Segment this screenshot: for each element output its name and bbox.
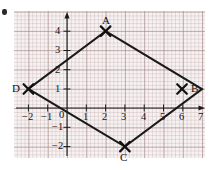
vertex-marker-b [177, 84, 187, 94]
y-tick-label-4: 4 [55, 26, 60, 37]
x-tick-label-7: 7 [198, 112, 203, 123]
figure-root: −2 −1 0 1 2 3 4 5 6 7 4 3 2 1 −1 −2 A B … [0, 0, 211, 170]
point-label-b: B [191, 83, 198, 94]
point-label-a: A [102, 15, 110, 26]
x-tick-label-6: 6 [179, 112, 184, 123]
point-label-c: C [120, 152, 127, 163]
vertex-markers [24, 26, 187, 151]
y-tick-label--1: −1 [52, 122, 63, 133]
y-axis [64, 12, 69, 156]
y-tick-label-3: 3 [55, 45, 60, 56]
x-tick-label-4: 4 [141, 112, 146, 123]
x-tick-label--1: −1 [41, 112, 52, 123]
y-tick-label--2: −2 [52, 141, 63, 152]
y-tick-label-2: 2 [55, 65, 60, 76]
x-tick-label-0: 0 [59, 110, 64, 121]
x-tick-label-1: 1 [83, 112, 88, 123]
y-tick-label-1: 1 [55, 84, 60, 95]
point-label-d: D [12, 83, 20, 94]
vertex-marker-a [101, 26, 111, 36]
x-tick-label-2: 2 [102, 112, 107, 123]
x-tick-label--2: −2 [22, 112, 33, 123]
vertex-marker-d [24, 84, 34, 94]
vertex-marker-c [120, 142, 130, 152]
x-tick-label-3: 3 [121, 112, 126, 123]
x-tick-label-5: 5 [160, 112, 165, 123]
